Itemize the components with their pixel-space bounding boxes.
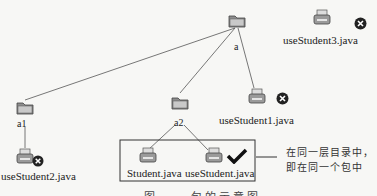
file-label-usestudent1: useStudent1.java	[219, 114, 294, 126]
package-annotation: 在同一层目录中， 即在同一个包中	[286, 145, 374, 175]
folder-label-a: a	[234, 41, 238, 53]
annotation-line-1: 在同一层目录中，	[286, 145, 374, 160]
figure-caption: 图 ·-· 包的示意图	[144, 188, 261, 196]
annotation-line-2: 即在同一个包中	[286, 160, 374, 175]
file-label-student: Student.java	[127, 167, 182, 179]
folder-label-a1: a1	[17, 118, 26, 130]
java-file-icon	[248, 88, 266, 105]
java-file-icon	[313, 9, 331, 26]
folder-icon	[228, 13, 246, 28]
java-file-icon	[205, 147, 223, 164]
checkmark-icon	[226, 148, 248, 164]
java-file-icon	[139, 147, 157, 164]
package-diagram: a a1 a2 useStudent3.java useStudent1.jav…	[0, 0, 377, 196]
x-badge-icon	[276, 92, 289, 105]
file-label-usestudent3: useStudent3.java	[283, 34, 358, 46]
x-badge-icon	[354, 17, 367, 30]
folder-icon	[171, 95, 189, 110]
folder-label-a2: a2	[174, 117, 183, 129]
file-label-usestudent: useStudent.java	[185, 167, 254, 179]
folder-icon	[16, 100, 34, 115]
file-label-usestudent2: useStudent2.java	[1, 170, 76, 182]
x-badge-icon	[32, 155, 44, 167]
